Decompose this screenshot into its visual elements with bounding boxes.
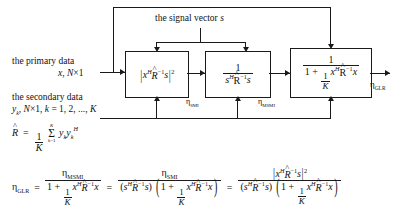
equation-lhs: ηGLR [12,181,29,194]
equation-equals-1: = [34,182,40,193]
block-smi-expression: |xHR−1s|2 [140,68,175,80]
primary-data-label-line1: the primary data [12,56,74,66]
signal-mid-drop [200,28,201,42]
signal-vector-label: the signal vector s [155,13,224,23]
equation-equals-3: = [227,182,233,193]
signal-left-drop [113,7,114,72]
final-equation: ηGLR = ηMSMI 1 + 1KxHR−1x = ηSMI (sHR−1s… [12,168,341,207]
covariance-arrow-block3 [328,96,334,101]
equation-expr-3: |xHR−1s|2 (sHR−1s) (1 + 1KxHR−1x) [238,168,341,206]
block-msmi[interactable]: 1 sHR−1s [205,51,271,98]
signal-top-rail [113,7,331,8]
covariance-bus [100,118,331,119]
equation-expr-1: ηMSMI 1 + 1KxHR−1x [45,168,101,207]
covariance-definition: R = 1K K Σ k=1 ykykH [12,124,78,153]
equation-expr-2: ηSMI (sHR−1s) (1 + 1KxHR−1x) [118,168,221,207]
covariance-arrow-block2 [235,96,241,101]
signal-right-drop [330,7,331,45]
equation-equals-2: = [107,182,113,193]
block-msmi-expression: 1 sHR−1s [223,63,253,87]
covariance-riser-block1 [156,101,157,118]
covariance-arrow-block1 [154,96,160,101]
secondary-data-label-line2: yk, N×1, k = 1, 2, ..., K [12,104,96,116]
output-label-glr: ηGLR [370,79,386,91]
diagram-canvas: the signal vector s the primary data x, … [0,0,400,223]
wire-output-arrow [385,70,390,76]
covariance-riser-block2 [237,101,238,118]
signal-branch-bus [156,42,245,43]
block-smi[interactable]: |xHR−1s|2 [125,51,189,98]
block-glr[interactable]: 1 1 + 1KxHR−1x [290,48,372,98]
covariance-riser-block3 [330,101,331,118]
secondary-data-label-line1: the secondary data [12,92,83,102]
label-eta-msmi: ηMSMI [258,97,275,108]
primary-data-label-line2: x, N×1 [58,68,83,78]
label-eta-smi: ηSMI [186,97,199,108]
block-glr-expression: 1 1 + 1KxHR−1x [303,55,359,92]
